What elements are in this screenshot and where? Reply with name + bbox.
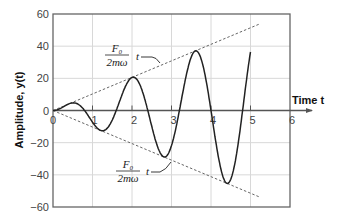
svg-text:0: 0 [43, 105, 49, 117]
svg-text:0: 0 [50, 114, 56, 126]
svg-text:2: 2 [131, 114, 137, 126]
y-axis-label: Amplitude, y(t) [13, 71, 25, 148]
svg-text:F₀: F₀ [111, 42, 123, 54]
svg-text:2mω: 2mω [117, 172, 138, 184]
response-curve [53, 51, 251, 184]
svg-text:60: 60 [37, 8, 49, 20]
svg-text:1: 1 [91, 114, 97, 126]
svg-text:3: 3 [170, 114, 176, 126]
svg-text:5: 5 [249, 114, 255, 126]
svg-text:20: 20 [37, 72, 49, 84]
svg-text:t: t [136, 50, 140, 62]
svg-text:6: 6 [289, 114, 295, 126]
upper-envelope-line [53, 24, 260, 111]
x-tick-labels: 0123456 [50, 114, 295, 126]
svg-text:−40: −40 [30, 169, 49, 181]
svg-text:F₀: F₀ [122, 158, 134, 170]
time-axis-arrow-icon [306, 108, 313, 113]
svg-text:2mω: 2mω [106, 56, 127, 68]
svg-text:40: 40 [37, 40, 49, 52]
lower-envelope-annotation: F₀ 2mω t [116, 158, 171, 184]
lower-envelope-line [53, 111, 260, 198]
y-tick-labels: 6040200−20−40−60 [30, 8, 49, 213]
svg-text:−60: −60 [30, 201, 49, 213]
svg-text:−20: −20 [30, 137, 49, 149]
chart: 6040200−20−40−60 0123456 Time t Amplitud… [0, 0, 341, 224]
x-axis-label: Time t [292, 94, 325, 106]
